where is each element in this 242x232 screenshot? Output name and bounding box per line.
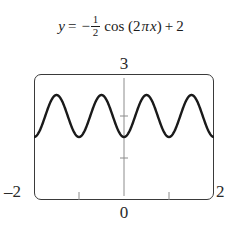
equation-pi-symbol: π (141, 18, 151, 34)
equation-lhs: y (58, 18, 65, 34)
x-axis-max-label: 2 (216, 183, 225, 200)
fraction-numerator: 1 (91, 14, 101, 26)
x-axis-min-label: –2 (4, 183, 21, 200)
graph-figure: y=−12cos (2πx)+2 3 –2 2 0 (0, 0, 242, 232)
equation-equals: = (65, 18, 79, 34)
equation-caption: y=−12cos (2πx)+2 (0, 14, 242, 39)
equation-minus-sign: − (79, 18, 89, 34)
plot-canvas (34, 74, 214, 200)
equation-coefficient: 2 (133, 18, 141, 34)
equation-constant: 2 (176, 18, 184, 34)
equation-variable-x: x (150, 18, 157, 34)
fraction-denominator: 2 (91, 26, 101, 39)
equation-cos-function: cos (101, 18, 124, 34)
y-axis-max-label: 3 (34, 55, 214, 72)
equation-plus-sign: + (162, 18, 176, 34)
equation-fraction-one-half: 12 (90, 14, 102, 39)
x-axis-origin-label: 0 (34, 204, 214, 221)
